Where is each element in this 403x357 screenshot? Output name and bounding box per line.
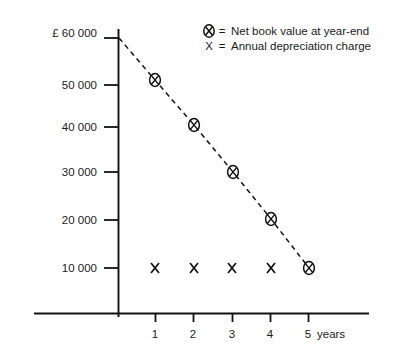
legend-label-net-book-value: Net book value at year-end [231,25,369,37]
net-book-value-marker-year-1 [150,74,161,87]
legend-equals-2: = [219,40,226,52]
depreciation-charge-series [151,263,275,273]
x-axis: 1 2 3 4 5 years [35,313,368,340]
depreciation-charge-marker-year-2 [190,263,198,273]
x-tick-label-3: 3 [229,328,235,340]
y-tick-label-40000: 40 000 [62,121,97,133]
x-axis-unit-label: years [317,328,345,340]
net-book-value-trend-line [119,38,309,268]
depreciation-charge-marker-year-3 [228,263,236,273]
chart-canvas: £ 60 000 50 000 40 000 30 000 20 000 10 … [0,0,403,357]
legend-label-depreciation-charge: Annual depreciation charge [231,40,371,52]
y-tick-label-30000: 30 000 [62,166,97,178]
net-book-value-marker-year-2 [189,119,200,132]
y-tick-label-50000: 50 000 [62,79,97,91]
net-book-value-marker-year-5 [304,262,315,275]
y-tick-label-60000: £ 60 000 [52,27,97,39]
depreciation-charge-marker-year-1 [151,263,159,273]
legend-symbol-depreciation-charge-icon: X [205,40,213,52]
net-book-value-marker-year-4 [266,213,277,226]
depreciation-charge-marker-year-4 [267,263,275,273]
net-book-value-marker-year-3 [228,166,239,179]
x-tick-label-5: 5 [305,328,311,340]
legend-equals-1: = [219,25,226,37]
y-tick-label-10000: 10 000 [62,262,97,274]
x-tick-label-4: 4 [267,328,274,340]
net-book-value-series [119,38,314,274]
y-tick-label-20000: 20 000 [62,214,97,226]
legend-symbol-net-book-value-icon [204,25,214,37]
y-axis: £ 60 000 50 000 40 000 30 000 20 000 10 … [52,27,118,316]
x-tick-label-1: 1 [152,328,158,340]
depreciation-chart: £ 60 000 50 000 40 000 30 000 20 000 10 … [0,0,403,357]
chart-legend: = Net book value at year-end X = Annual … [204,25,371,52]
x-tick-label-2: 2 [190,328,196,340]
